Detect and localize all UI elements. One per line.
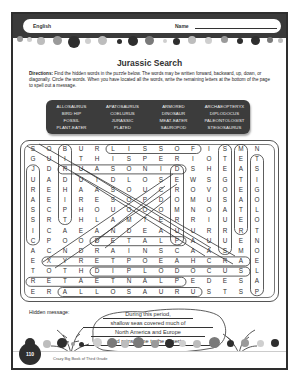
hidden-message-line: shallow seas covered much of bbox=[73, 320, 223, 326]
word-bank-item: APATOSAURUS bbox=[97, 103, 148, 110]
word-bank-item: SAUROPOD bbox=[148, 124, 199, 131]
partial-caption-below-page bbox=[130, 374, 170, 382]
word-bank-item: FOSSIL bbox=[46, 117, 97, 124]
word-bank-item: STEGOSAURUS bbox=[199, 124, 250, 131]
word-search-puzzle: SOBURLISSOFISMNGUITHISPERIOTETJDRUASONID… bbox=[20, 140, 279, 302]
word-bank-item: DINOSAUR bbox=[148, 110, 199, 117]
header-bar: English Name bbox=[23, 19, 281, 33]
word-bank: ALLOSAURUS APATOSAURUS ARMORED ARCHAEOPT… bbox=[46, 100, 250, 134]
word-bank-item: DIPLODOCUS bbox=[199, 110, 250, 117]
word-bank-item: COELURUS bbox=[97, 110, 148, 117]
decorative-dots-top bbox=[13, 36, 286, 50]
word-bank-item: ARMORED bbox=[148, 103, 199, 110]
word-bank-item: JURASSIC bbox=[97, 117, 148, 124]
word-bank-item: ALLOSAURUS bbox=[46, 103, 97, 110]
hidden-message-line: During this period, bbox=[73, 311, 223, 317]
decorative-dots-bottom bbox=[13, 334, 286, 348]
word-bank-item: MEAT-EATER bbox=[148, 117, 199, 124]
name-field-line[interactable] bbox=[195, 28, 277, 29]
word-bank-item: ARCHAEOPTERYX bbox=[199, 103, 250, 110]
name-label: Name bbox=[175, 23, 189, 29]
word-bank-item: PLATED bbox=[97, 124, 148, 131]
found-word-circles bbox=[25, 144, 265, 297]
book-title: Crazy Big Book of Third Grade bbox=[53, 356, 107, 361]
subject-label: English bbox=[33, 23, 51, 29]
page-title: Jurassic Search bbox=[13, 58, 286, 68]
word-bank-item: BIRD HIP bbox=[46, 110, 97, 117]
directions-label: Directions: bbox=[29, 71, 53, 76]
directions-text: Directions: Find the hidden words in the… bbox=[29, 71, 275, 90]
word-bank-item: PLANT-EATER bbox=[46, 124, 97, 131]
directions-body: Find the hidden words in the puzzle belo… bbox=[29, 71, 270, 88]
word-bank-item: PALEONTOLOGIST bbox=[199, 117, 250, 124]
page-number-badge: 110 bbox=[19, 343, 41, 365]
worksheet-page: English Name Jurassic Search Directions:… bbox=[11, 12, 288, 370]
